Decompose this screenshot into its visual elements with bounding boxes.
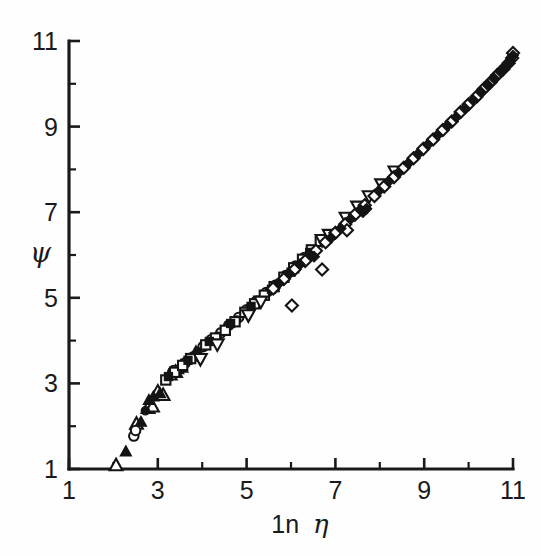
x-tick-label: 11 — [500, 476, 526, 504]
y-tick-label: 3 — [44, 369, 58, 397]
y-axis-title: ψ — [30, 237, 52, 268]
x-axis-title: 1n η — [271, 509, 329, 539]
scatter-plot: 13579111357911 1n η ψ — [0, 0, 541, 556]
x-tick-label: 1 — [62, 476, 76, 504]
data-point-open-circle — [131, 426, 141, 436]
data-point-filled-circle — [141, 407, 149, 415]
data-point-filled-square — [184, 356, 192, 364]
y-tick-label: 9 — [44, 113, 58, 141]
x-tick-label: 7 — [328, 476, 342, 504]
x-tick-label: 5 — [240, 476, 254, 504]
x-tick-label: 9 — [417, 476, 431, 504]
data-point-filled-square — [247, 302, 255, 310]
x-tick-label: 3 — [151, 476, 165, 504]
figure-container: 13579111357911 1n η ψ — [0, 0, 541, 556]
y-tick-label: 5 — [44, 284, 58, 312]
y-tick-label: 1 — [44, 455, 58, 483]
data-point-filled-square — [227, 320, 235, 328]
plot-background — [0, 0, 541, 556]
y-tick-label: 7 — [44, 198, 58, 226]
data-point-filled-square — [165, 373, 173, 381]
y-tick-label: 11 — [32, 27, 58, 55]
